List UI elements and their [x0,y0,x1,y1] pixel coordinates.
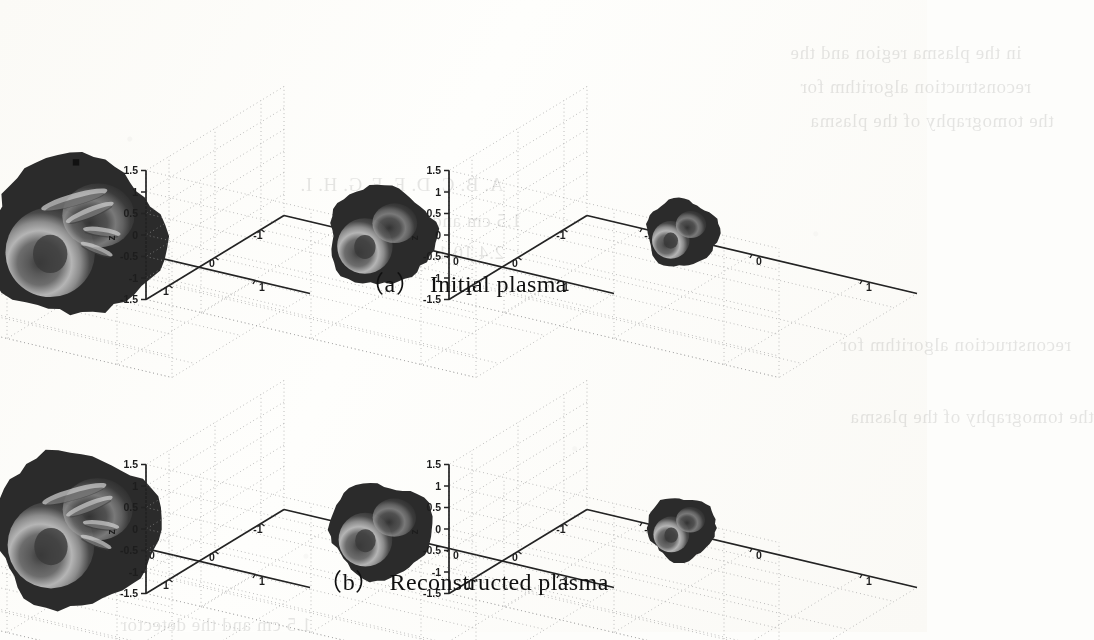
caption-reconstructed-plasma: （b）Reconstructed plasma [0,562,927,597]
isosurface-blob [647,498,717,563]
z-tick-label: 0.5 [123,501,138,513]
plot-svg: 1.510.50-0.5-1-1.5z10-110-1 [312,330,621,580]
axes-b2: 1.510.50-0.5-1-1.5z10-110-1 [312,330,621,580]
caption-a-label: （a） [360,271,420,297]
grid-line [750,255,752,259]
z-axis-label: z [409,530,420,535]
y-tick-label: 0 [453,549,459,561]
z-tick-label: 0 [435,229,441,241]
z-axis-label: z [409,236,420,241]
axes-b1: 1.510.50-0.5-1-1.5z10-110-1 [8,330,317,580]
plot-marker [73,159,79,165]
z-tick-label: 1 [435,480,441,492]
z-tick-label: 1.5 [123,164,138,176]
y-tick-label: 0 [756,549,762,561]
isosurface-blob [646,197,721,266]
z-tick-label: 1 [435,186,441,198]
z-tick-label: 0.5 [426,207,441,219]
z-tick-label: 1.5 [426,164,441,176]
z-tick-label: 0 [132,229,138,241]
axes-a3: 1.510.50-0.5-1-1.5z10-110-1 [615,36,924,286]
plot-panel-a2[interactable]: 1.510.50-0.5-1-1.5z10-110-1 [312,36,621,286]
axes-a1: 1.510.50-0.5-1-1.5z10-110-1 [8,36,317,286]
x-tick-label: -1 [556,229,565,241]
plot-svg: 1.510.50-0.5-1-1.5z10-110-1 [615,330,924,580]
plot-svg: 1.510.50-0.5-1-1.5z10-110-1 [8,330,317,580]
grid-line [640,229,642,233]
plot-panel-a1[interactable]: 1.510.50-0.5-1-1.5z10-110-1 [8,36,317,286]
z-axis-label: z [106,530,117,535]
caption-b-label: （b） [318,569,379,595]
z-tick-label: 1.5 [123,458,138,470]
z-tick-label: -0.5 [423,250,441,262]
caption-initial-plasma: （a）Initial plasma [0,264,927,299]
x-tick-label: 0 [512,551,518,563]
grid-line [750,549,752,553]
z-tick-label: -0.5 [423,544,441,556]
z-tick-label: 1.5 [426,458,441,470]
grid-line [640,523,642,527]
z-tick-label: 0.5 [123,207,138,219]
plot-svg: 1.510.50-0.5-1-1.5z10-110-1 [312,36,621,286]
plot-panel-b3[interactable]: 1.510.50-0.5-1-1.5z10-110-1 [615,330,924,580]
plot-svg: 1.510.50-0.5-1-1.5z10-110-1 [8,36,317,286]
x-tick-label: 0 [209,551,215,563]
plot-row-reconstructed-plasma: 1.510.50-0.5-1-1.5z10-110-1 1.510.50-0.5… [0,330,927,580]
z-tick-label: 0.5 [426,501,441,513]
z-tick-label: 1 [132,186,138,198]
z-tick-label: 0 [132,523,138,535]
x-tick-label: -1 [556,523,565,535]
caption-b-text: Reconstructed plasma [389,569,608,595]
caption-a-text: Initial plasma [430,271,567,297]
z-tick-label: -0.5 [120,544,138,556]
axes-b3: 1.510.50-0.5-1-1.5z10-110-1 [615,330,924,580]
plot-svg: 1.510.50-0.5-1-1.5z10-110-1 [615,36,924,286]
x-tick-label: -1 [253,229,262,241]
z-tick-label: -0.5 [120,250,138,262]
plot-row-initial-plasma: 1.510.50-0.5-1-1.5z10-110-1 1.510.50-0.5… [0,36,927,286]
axes-a2: 1.510.50-0.5-1-1.5z10-110-1 [312,36,621,286]
z-axis-label: z [106,236,117,241]
x-tick-label: -1 [253,523,262,535]
plot-panel-a3[interactable]: 1.510.50-0.5-1-1.5z10-110-1 [615,36,924,286]
z-tick-label: 1 [132,480,138,492]
plot-panel-b1[interactable]: 1.510.50-0.5-1-1.5z10-110-1 [8,330,317,580]
plot-panel-b2[interactable]: 1.510.50-0.5-1-1.5z10-110-1 [312,330,621,580]
z-tick-label: 0 [435,523,441,535]
